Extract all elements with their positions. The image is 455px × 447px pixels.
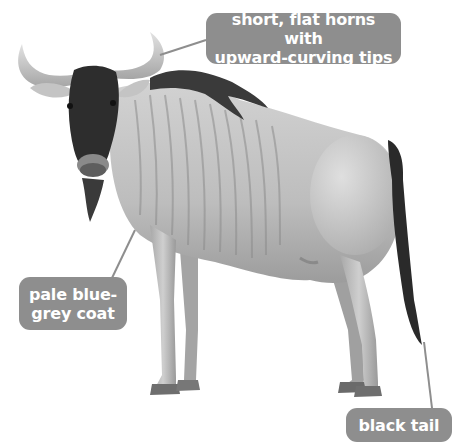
label-coat-line-1: pale blue-: [29, 285, 117, 304]
label-coat-line-2: grey coat: [29, 304, 117, 323]
black-tail: [388, 140, 422, 345]
label-tail-line-1: black tail: [359, 416, 440, 435]
leader-line-tail: [424, 342, 432, 408]
leader-line-horns: [160, 40, 206, 55]
wildebeest-body: [110, 83, 401, 283]
label-horns-line-2: upward-curving tips: [212, 48, 395, 67]
wildebeest-illustration: [0, 0, 455, 447]
label-coat: pale blue- grey coat: [19, 277, 127, 330]
leader-line-coat: [112, 230, 135, 278]
label-horns-line-1: short, flat horns with: [212, 10, 395, 48]
label-tail: black tail: [346, 408, 452, 442]
label-horns: short, flat horns with upward-curving ti…: [206, 13, 401, 64]
